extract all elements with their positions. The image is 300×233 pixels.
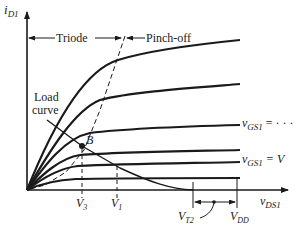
load-curve-label-line1: Load xyxy=(34,90,59,104)
x-tick-vt2: VT2 xyxy=(178,209,194,225)
y-axis-label: iD1 xyxy=(4,2,19,19)
x-tick-v3: V3 xyxy=(76,196,87,212)
curve-1 xyxy=(27,40,240,190)
region-indicator: Triode Pinch-off xyxy=(29,31,191,45)
characteristic-curves xyxy=(27,40,240,190)
x-tick-v1: V1 xyxy=(111,196,122,212)
curve-6 xyxy=(27,178,240,190)
curve-5 xyxy=(27,162,240,190)
curve-label-vgs-v: vGS1 = V xyxy=(242,152,286,168)
x-axis-label: vDS1 xyxy=(260,194,281,210)
span-pointer xyxy=(200,203,214,218)
mosfet-characteristics-diagram: iD1 vDS1 Triode Pinch-off Load curve B V xyxy=(0,0,300,233)
pinchoff-label: Pinch-off xyxy=(146,31,191,45)
triode-label: Triode xyxy=(56,31,88,45)
operating-point-label: B xyxy=(86,133,94,147)
x-tick-vdd: VDD xyxy=(230,209,249,225)
curve-label-vgs-dots: vGS1 = · · · xyxy=(242,116,294,132)
load-curve-label-line2: curve xyxy=(32,103,59,117)
